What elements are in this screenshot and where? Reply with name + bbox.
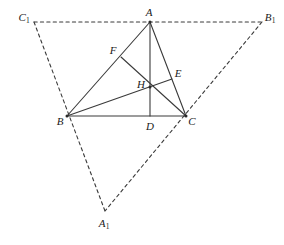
point-label-B1-base: B [265,11,272,23]
point-label-B: B [57,116,64,127]
solid-inner-triangle [67,22,186,116]
point-label-C1-subscript: 1 [26,16,30,25]
point-label-E: E [175,68,182,79]
point-marker-B [66,115,69,118]
point-label-C1-base: C [18,11,25,23]
point-label-A: A [146,7,153,18]
point-label-D: D [146,121,154,132]
point-marker-C [185,115,188,118]
point-label-C1: C1 [18,12,29,23]
point-label-A1: A1 [99,218,109,229]
point-marker-A [149,21,152,24]
point-label-H: H [137,79,145,90]
point-label-B1-subscript: 1 [272,16,276,25]
geometry-figure: A B C D E F H A1 B1 C1 [0,0,284,245]
point-label-A1-subscript: 1 [106,222,110,231]
geometry-canvas [0,0,284,245]
point-label-C: C [188,116,195,127]
vertex-markers [66,21,188,118]
point-label-B1: B1 [265,12,275,23]
point-label-F: F [110,45,117,56]
point-label-A1-base: A [99,217,106,229]
point-marker-H [149,86,152,89]
